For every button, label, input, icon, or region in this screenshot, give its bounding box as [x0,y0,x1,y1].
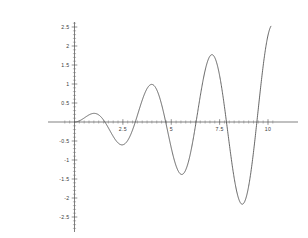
y-tick-label: 2 [66,43,69,49]
y-tick-label: 1 [66,81,69,87]
plot-canvas: 2.557.510 -2.5-2-1.5-1-0.50.511.522.5 [0,0,308,238]
plot-background [0,0,308,238]
y-tick-label: -1 [64,157,69,163]
y-tick-label: 0.5 [61,100,69,106]
x-tick-label: 5 [170,126,173,132]
y-tick-label: 1.5 [61,62,69,68]
y-tick-label: -0.5 [59,138,69,144]
y-tick-label: -2 [64,195,69,201]
y-tick-label: -2.5 [59,214,69,220]
x-tick-label: 2.5 [119,126,127,132]
plot-figure: 2.557.510 -2.5-2-1.5-1-0.50.511.522.5 [0,0,308,238]
x-tick-label: 7.5 [215,126,223,132]
y-tick-label: -1.5 [59,176,69,182]
x-tick-label: 10 [265,126,271,132]
y-tick-label: 2.5 [61,24,69,30]
